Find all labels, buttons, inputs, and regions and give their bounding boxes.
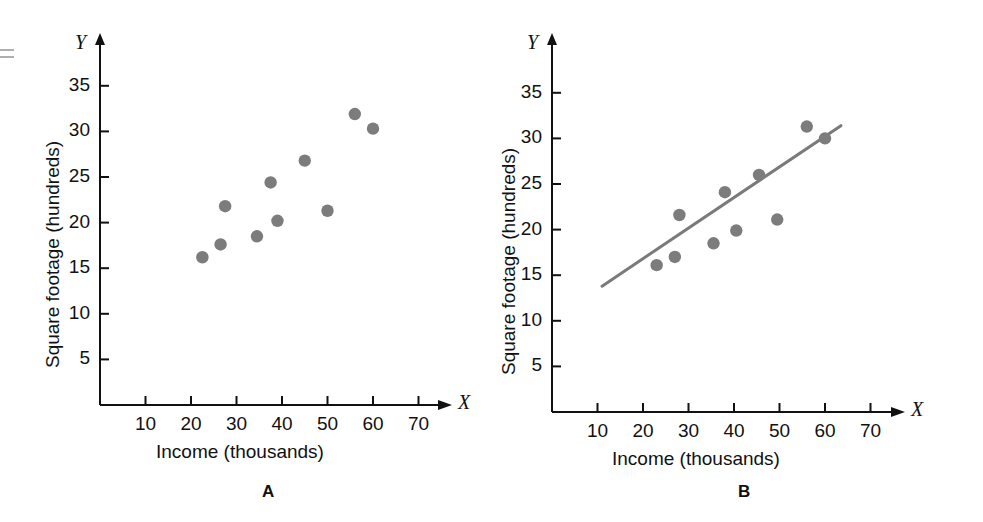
y-axis-arrow-icon bbox=[547, 33, 557, 45]
x-tick-label: 70 bbox=[853, 420, 889, 442]
y-axis-arrow-icon bbox=[95, 33, 105, 45]
y-axis-title-b: Square footage (hundreds) bbox=[498, 148, 520, 375]
x-axis-title-a: Income (thousands) bbox=[156, 441, 324, 463]
data-point bbox=[673, 209, 685, 221]
y-tick-label: 10 bbox=[54, 302, 90, 324]
panel-a: Square footage (hundreds) Income (thousa… bbox=[0, 0, 491, 522]
x-tick-label: 40 bbox=[264, 413, 300, 435]
x-tick-label: 30 bbox=[671, 420, 707, 442]
y-tick-label: 25 bbox=[54, 165, 90, 187]
data-point bbox=[264, 176, 276, 188]
x-axis-arrow-icon bbox=[891, 407, 905, 417]
x-tick-label: 10 bbox=[128, 413, 164, 435]
x-tick-label: 40 bbox=[716, 420, 752, 442]
data-point bbox=[753, 169, 765, 181]
data-point bbox=[771, 213, 783, 225]
data-point bbox=[669, 251, 681, 263]
y-tick-label: 5 bbox=[54, 347, 90, 369]
x-tick-label: 50 bbox=[762, 420, 798, 442]
data-point bbox=[214, 238, 226, 250]
x-axis-arrow-icon bbox=[438, 400, 452, 410]
x-axis-letter: X bbox=[911, 398, 923, 421]
data-point bbox=[367, 122, 379, 134]
data-point bbox=[271, 215, 283, 227]
data-point bbox=[650, 259, 662, 271]
y-tick-label: 15 bbox=[54, 256, 90, 278]
y-tick-label: 30 bbox=[506, 126, 542, 148]
y-tick-label: 20 bbox=[54, 211, 90, 233]
scatter-plot-b bbox=[460, 0, 951, 522]
data-point bbox=[219, 200, 231, 212]
y-tick-label: 35 bbox=[506, 81, 542, 103]
x-axis-title-b: Income (thousands) bbox=[612, 448, 780, 470]
y-tick-label: 30 bbox=[54, 119, 90, 141]
x-tick-label: 10 bbox=[580, 420, 616, 442]
data-point bbox=[730, 224, 742, 236]
data-point bbox=[349, 108, 361, 120]
x-tick-label: 20 bbox=[625, 420, 661, 442]
x-tick-label: 50 bbox=[310, 413, 346, 435]
panel-caption-a: A bbox=[262, 482, 275, 502]
data-point bbox=[251, 230, 263, 242]
data-point bbox=[299, 154, 311, 166]
x-tick-label: 60 bbox=[807, 420, 843, 442]
data-point bbox=[196, 251, 208, 263]
data-point bbox=[819, 132, 831, 144]
figure-root: Square footage (hundreds) Income (thousa… bbox=[0, 0, 983, 522]
data-point bbox=[719, 186, 731, 198]
y-axis-letter: Y bbox=[75, 31, 86, 54]
x-tick-label: 60 bbox=[355, 413, 391, 435]
x-tick-label: 20 bbox=[173, 413, 209, 435]
data-point bbox=[801, 120, 813, 132]
x-tick-label: 70 bbox=[401, 413, 437, 435]
panel-b: 510152025303510203040506070YX bbox=[460, 0, 951, 522]
data-point bbox=[321, 205, 333, 217]
x-tick-label: 30 bbox=[219, 413, 255, 435]
data-point bbox=[707, 237, 719, 249]
y-tick-label: 35 bbox=[54, 74, 90, 96]
panel-caption-b: B bbox=[738, 482, 751, 502]
regression-line bbox=[602, 126, 841, 287]
y-axis-letter: Y bbox=[527, 31, 538, 54]
